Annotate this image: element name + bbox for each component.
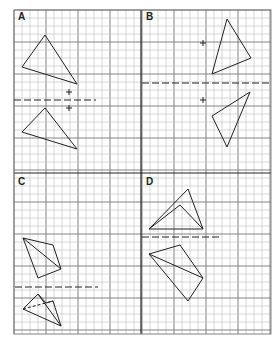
- panel-label-b: B: [146, 11, 153, 22]
- reflection-diagram: [0, 0, 274, 344]
- panel-label-c: C: [18, 176, 25, 187]
- grid: [14, 10, 271, 334]
- shape-polygon: [149, 245, 203, 301]
- shape-segment: [149, 205, 180, 229]
- panel-label-a: A: [18, 11, 25, 22]
- panel-label-d: D: [146, 176, 153, 187]
- shape-polygon: [212, 92, 250, 147]
- grid-border: [14, 10, 271, 334]
- shape-segment: [180, 205, 203, 229]
